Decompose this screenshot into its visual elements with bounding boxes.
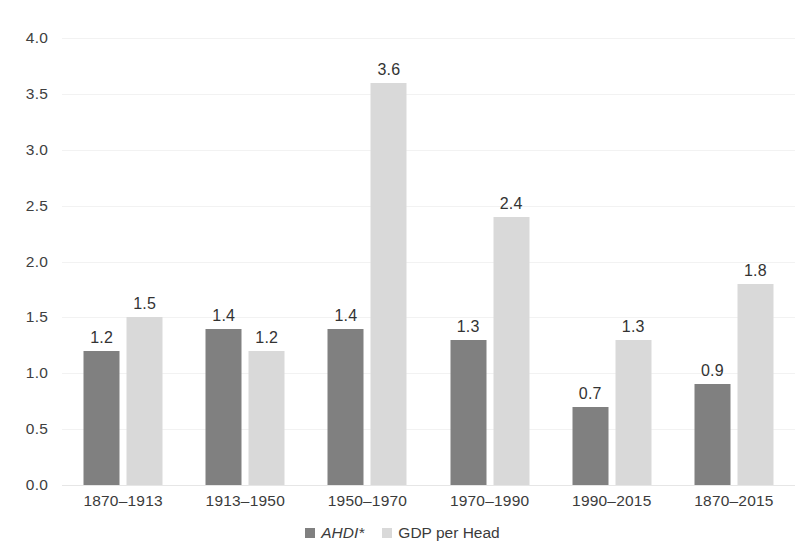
bar-value-label: 1.5 [133,295,156,313]
bar-value-label: 2.4 [500,195,523,213]
chart-legend: AHDI*GDP per Head [0,524,805,542]
bar-column: 1.3 [450,38,486,485]
bar-column: 0.9 [694,38,730,485]
legend-item[interactable]: GDP per Head [382,524,499,542]
bar-group: 1.21.5 [62,38,184,485]
y-axis-labels: 4.03.53.02.52.01.51.00.50.0 [0,0,62,560]
bar-group: 1.32.4 [429,38,551,485]
bar[interactable] [572,407,608,485]
bar[interactable] [615,340,651,485]
y-axis-tick-label: 2.5 [26,197,48,215]
bar[interactable] [493,217,529,485]
bar-value-label: 1.4 [212,307,235,325]
bar-value-label: 0.9 [701,362,724,380]
bar-column: 1.2 [84,38,120,485]
bar-pair: 1.21.5 [84,38,163,485]
x-axis-tick-label: 1990–2015 [551,492,673,518]
y-axis-tick-label: 0.5 [26,420,48,438]
x-axis-labels: 1870–19131913–19501950–19701970–19901990… [62,492,795,518]
legend-swatch-icon [305,528,315,538]
bar-column: 1.4 [328,38,364,485]
bar-chart: 4.03.53.02.52.01.51.00.50.0 1.21.51.41.2… [0,0,805,560]
y-axis-tick-label: 3.5 [26,85,48,103]
gridline [62,485,795,486]
bar-value-label: 3.6 [378,61,401,79]
legend-item[interactable]: AHDI* [305,524,364,542]
bar[interactable] [737,284,773,485]
x-axis-tick-label: 1870–1913 [62,492,184,518]
x-axis-tick-label: 1870–2015 [673,492,795,518]
x-axis-tick-label: 1970–1990 [429,492,551,518]
bar-pair: 0.71.3 [572,38,651,485]
x-axis-tick-label: 1950–1970 [306,492,428,518]
bar-value-label: 1.2 [255,329,278,347]
bar-pair: 1.32.4 [450,38,529,485]
bar-column: 1.3 [615,38,651,485]
y-axis-tick-label: 4.0 [26,29,48,47]
y-axis-tick-label: 1.0 [26,364,48,382]
bar[interactable] [694,384,730,485]
bar-column: 3.6 [371,38,407,485]
legend-label: AHDI* [321,524,364,542]
bar-column: 1.5 [127,38,163,485]
bar[interactable] [450,340,486,485]
bar[interactable] [371,83,407,485]
bar-pair: 0.91.8 [694,38,773,485]
bar-group: 0.91.8 [673,38,795,485]
bar-value-label: 1.4 [335,307,358,325]
bar-column: 0.7 [572,38,608,485]
bar[interactable] [249,351,285,485]
x-axis-tick-label: 1913–1950 [184,492,306,518]
bar-group: 1.41.2 [184,38,306,485]
bar[interactable] [84,351,120,485]
bar-value-label: 1.3 [622,318,645,336]
bar[interactable] [328,329,364,485]
bar-value-label: 1.2 [90,329,113,347]
legend-swatch-icon [382,528,392,538]
bar-value-label: 1.3 [457,318,480,336]
bar-column: 1.4 [206,38,242,485]
y-axis-tick-label: 2.0 [26,253,48,271]
bar[interactable] [206,329,242,485]
y-axis-tick-label: 0.0 [26,476,48,494]
legend-label: GDP per Head [398,524,499,542]
bar-value-label: 1.8 [744,262,767,280]
bar-pair: 1.41.2 [206,38,285,485]
bar-column: 2.4 [493,38,529,485]
bar-group: 0.71.3 [551,38,673,485]
bar-groups: 1.21.51.41.21.43.61.32.40.71.30.91.8 [62,38,795,485]
bar-pair: 1.43.6 [328,38,407,485]
bar-group: 1.43.6 [306,38,428,485]
y-axis-tick-label: 1.5 [26,308,48,326]
bar-value-label: 0.7 [579,385,602,403]
bar-column: 1.2 [249,38,285,485]
bar-column: 1.8 [737,38,773,485]
bar[interactable] [127,317,163,485]
y-axis-tick-label: 3.0 [26,141,48,159]
